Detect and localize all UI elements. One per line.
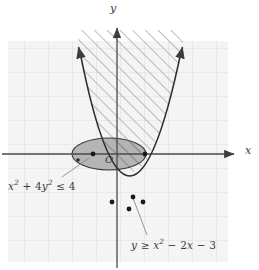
point-parabola-vertex (127, 207, 132, 212)
math-figure: y x O x2 + 4y2 ≤ 4 y ≥ x2 − 2x − 3 (0, 0, 259, 270)
point-leader-anchor (131, 195, 136, 200)
origin-label: O (105, 154, 113, 165)
ellipse-relation: ≤ 4 (53, 180, 76, 192)
point-intersection-left (91, 152, 96, 157)
parabola-inequality-label: y ≥ x2 − 2x − 3 (131, 237, 216, 251)
point-ellipse-left-tick (76, 158, 80, 162)
figure-canvas (0, 0, 259, 270)
point-parabola-right (141, 200, 146, 205)
y-axis-label: y (110, 2, 116, 15)
parabola-relation: ≥ (137, 239, 153, 251)
parabola-minus-3: − 3 (193, 239, 216, 251)
ellipse-inequality-label: x2 + 4y2 ≤ 4 (8, 178, 76, 192)
point-intersection-right (143, 152, 148, 157)
parabola-minus-2: − 2 (164, 239, 187, 251)
ellipse-plus-4: + 4 (19, 180, 42, 192)
point-parabola-left (110, 200, 115, 205)
x-axis-label: x (245, 144, 251, 157)
